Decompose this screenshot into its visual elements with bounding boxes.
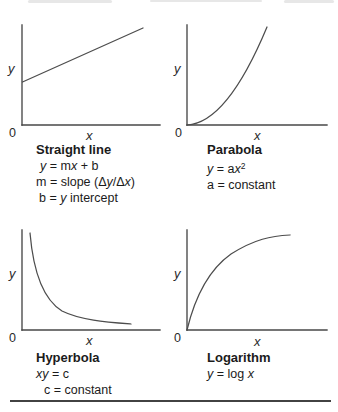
formula-line: b = y intercept — [36, 190, 135, 206]
logarithm-caption: Logarithm y = log x — [207, 350, 271, 382]
formula-part: = a — [213, 162, 234, 176]
hyperbola-curve — [30, 233, 131, 324]
origin-label: 0 — [9, 331, 16, 345]
exponent: 2 — [241, 161, 246, 171]
formula-part: c = constant — [44, 383, 112, 397]
y-axis-label: y — [173, 266, 182, 281]
panel-title: Parabola — [207, 142, 275, 158]
x-axis-label: x — [253, 128, 261, 143]
formula-part: = log — [213, 367, 247, 381]
formula-part: /Δ — [113, 175, 125, 189]
formula-part: x — [248, 367, 254, 381]
formula-line: m = slope (Δy/Δx) — [36, 174, 135, 190]
line-curve — [23, 28, 144, 82]
formula-part: intercept — [66, 191, 117, 205]
parabola-plot: y 0 x — [169, 0, 338, 146]
straight-line-caption: Straight line y = mx + b m = slope (Δy/Δ… — [36, 142, 135, 206]
panel-hyperbola: y 0 x Hyperbola xy = c c = constant — [0, 206, 169, 412]
y-axis-label: y — [7, 61, 16, 76]
panel-parabola: y 0 x Parabola y = ax2 a = constant — [169, 0, 338, 206]
logarithm-plot: y 0 x — [169, 206, 338, 352]
formula-line: c = constant — [36, 382, 112, 398]
straight-line-plot: y 0 x — [0, 0, 169, 146]
formula-part: + b — [77, 159, 98, 173]
panel-title: Logarithm — [207, 350, 271, 366]
formula-part: = c — [49, 367, 70, 381]
parabola-curve — [187, 27, 267, 125]
origin-label: 0 — [9, 126, 16, 140]
formula-part: = m — [46, 159, 71, 173]
formula-part: m = slope (Δ — [36, 175, 107, 189]
formula-part: b = — [39, 191, 60, 205]
hyperbola-caption: Hyperbola xy = c c = constant — [36, 350, 112, 398]
logarithm-curve — [187, 235, 290, 330]
x-axis-label: x — [85, 128, 93, 143]
y-axis-label: y — [8, 266, 17, 281]
formula-line: y = log x — [207, 366, 271, 382]
formula-line: xy = c — [36, 366, 112, 382]
origin-label: 0 — [175, 126, 182, 140]
panel-straight-line: y 0 x Straight line y = mx + b m = slope… — [0, 0, 169, 206]
hyperbola-plot: y 0 x — [0, 206, 169, 352]
bottom-rule — [10, 400, 331, 402]
formula-line: y = ax2 — [207, 158, 275, 177]
x-axis-label: x — [253, 334, 261, 349]
y-axis-label: y — [173, 61, 182, 76]
formula-part: ) — [131, 175, 135, 189]
origin-label: 0 — [174, 331, 181, 345]
figure-common-function-shapes: y 0 x Straight line y = mx + b m = slope… — [0, 0, 338, 412]
formula-line: y = mx + b — [36, 158, 135, 174]
x-axis-label: x — [85, 333, 93, 348]
panel-title: Hyperbola — [36, 350, 112, 366]
formula-line: a = constant — [207, 177, 275, 193]
parabola-caption: Parabola y = ax2 a = constant — [207, 142, 275, 193]
panel-title: Straight line — [36, 142, 135, 158]
formula-part: a = constant — [207, 178, 275, 192]
panel-logarithm: y 0 x Logarithm y = log x — [169, 206, 338, 412]
